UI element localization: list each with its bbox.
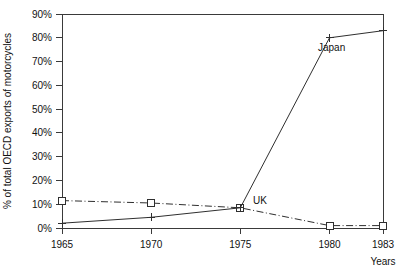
series-japan-label: Japan <box>318 42 345 53</box>
series-uk-marker-1980 <box>326 222 333 229</box>
y-tick-label-80: 80% <box>32 32 52 43</box>
series-uk-marker-1970 <box>148 200 155 207</box>
series-uk-line <box>62 201 383 226</box>
series-japan-marker-1980 <box>326 34 334 42</box>
x-tick-label-1983: 1983 <box>372 239 395 250</box>
x-tick-label-1980: 1980 <box>318 239 341 250</box>
series-japan-marker-1970 <box>147 213 155 221</box>
x-tick-label-1970: 1970 <box>140 239 163 250</box>
x-tick-label-1965: 1965 <box>51 239 74 250</box>
series-japan: Japan <box>58 27 387 228</box>
x-axis-ticks <box>62 228 383 234</box>
y-axis-tick-labels: 0% 10% 20% 30% 40% 50% 60% 70% 80% 90% <box>32 9 52 234</box>
x-axis-tick-labels: 1965 1970 1975 1980 1983 <box>51 239 395 250</box>
y-tick-label-0: 0% <box>38 223 53 234</box>
chart-container: 0% 10% 20% 30% 40% 50% 60% 70% 80% 90% 1… <box>0 0 408 274</box>
series-japan-marker-1965 <box>58 219 66 227</box>
series-uk: UK <box>59 195 387 229</box>
y-tick-label-70: 70% <box>32 56 52 67</box>
series-uk-marker-1983 <box>380 222 387 229</box>
series-japan-marker-1983 <box>379 27 387 35</box>
series-uk-label: UK <box>253 195 267 206</box>
y-tick-label-30: 30% <box>32 151 52 162</box>
y-tick-label-50: 50% <box>32 104 52 115</box>
y-tick-label-20: 20% <box>32 175 52 186</box>
series-japan-line <box>62 31 383 224</box>
motorcycle-exports-line-chart: 0% 10% 20% 30% 40% 50% 60% 70% 80% 90% 1… <box>0 0 408 274</box>
x-axis-title: Years <box>370 256 395 267</box>
y-tick-label-10: 10% <box>32 199 52 210</box>
y-axis-title: % of total OECD exports of motorcycles <box>2 33 13 209</box>
y-tick-label-40: 40% <box>32 127 52 138</box>
y-tick-label-90: 90% <box>32 9 52 20</box>
series-uk-marker-1965 <box>59 197 66 204</box>
x-tick-label-1975: 1975 <box>229 239 252 250</box>
y-tick-label-60: 60% <box>32 80 52 91</box>
y-axis-ticks <box>56 14 62 228</box>
